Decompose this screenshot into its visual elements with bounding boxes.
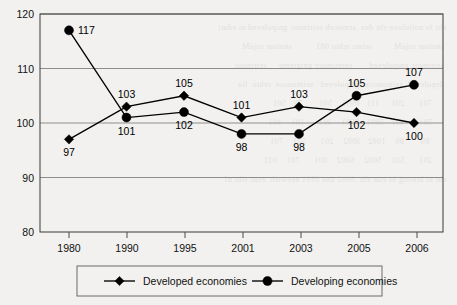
data-point-label: 97 [63, 146, 75, 158]
diamond-marker-icon [115, 276, 124, 285]
x-tick-label: 1980 [57, 242, 81, 254]
circle-marker-icon [295, 129, 304, 138]
legend-label: Developed economies [143, 275, 247, 287]
x-tick-label: 1995 [173, 242, 197, 254]
line-chart: 120 110 100 90 80 1980 1990 1995 2001 20… [0, 0, 457, 305]
data-point-label: 102 [175, 119, 193, 131]
x-axis-ticks: 1980 1990 1995 2001 2003 2005 2006 [57, 242, 429, 254]
circle-marker-icon [180, 108, 189, 117]
data-point-label: 101 [233, 99, 251, 111]
circle-marker-icon [122, 113, 131, 122]
diamond-marker-icon [294, 102, 303, 111]
legend-item-developed[interactable]: Developed economies [104, 275, 247, 287]
circle-marker-icon [263, 276, 272, 285]
diamond-marker-icon [179, 91, 188, 100]
data-point-label: 103 [118, 88, 136, 100]
data-point-label: 107 [405, 66, 423, 78]
diamond-marker-icon [352, 107, 361, 116]
y-tick-label: 120 [16, 8, 34, 20]
data-point-label: 100 [405, 130, 423, 142]
data-point-label: 102 [348, 119, 366, 131]
diamond-marker-icon [237, 113, 246, 122]
x-tick-label: 2005 [347, 242, 371, 254]
data-point-label: 117 [78, 24, 95, 36]
circle-marker-icon [410, 80, 419, 89]
diamond-marker-icon [64, 135, 73, 144]
data-point-label: 105 [348, 77, 366, 89]
legend: Developed economies Developing economies [77, 266, 397, 296]
circle-marker-icon [65, 26, 74, 35]
data-point-label: 98 [236, 141, 248, 153]
gridlines [40, 14, 443, 178]
x-tick-label: 2006 [405, 242, 429, 254]
x-axis-tickmarks [69, 232, 417, 238]
legend-label: Developing economies [291, 275, 397, 287]
data-point-label: 103 [290, 88, 308, 100]
x-tick-label: 2003 [289, 242, 313, 254]
data-point-label: 98 [293, 141, 305, 153]
x-tick-label: 2001 [231, 242, 255, 254]
y-tick-label: 110 [17, 63, 34, 75]
x-tick-label: 1990 [115, 242, 139, 254]
y-axis-ticks: 120 110 100 90 80 [16, 8, 34, 238]
y-tick-label: 80 [22, 226, 34, 238]
diamond-marker-icon [409, 118, 418, 127]
circle-marker-icon [352, 91, 361, 100]
circle-marker-icon [237, 129, 246, 138]
legend-item-developing[interactable]: Developing economies [252, 275, 397, 287]
data-point-label: 105 [175, 77, 193, 89]
diamond-marker-icon [122, 102, 131, 111]
data-point-label: 101 [118, 125, 136, 137]
y-tick-label: 90 [22, 172, 34, 184]
y-tick-label: 100 [16, 117, 34, 129]
